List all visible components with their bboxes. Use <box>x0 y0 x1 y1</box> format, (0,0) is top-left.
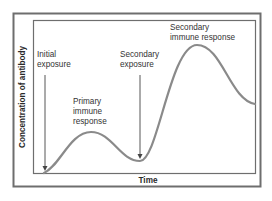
primary-response-label: Primary immune response <box>73 97 107 126</box>
plot-area-frame <box>34 21 256 174</box>
y-axis-title: Concentration of antibody <box>18 46 27 148</box>
antibody-response-diagram: Initial exposure Secondary exposure Prim… <box>0 0 272 201</box>
x-axis-title: Time <box>139 176 158 185</box>
